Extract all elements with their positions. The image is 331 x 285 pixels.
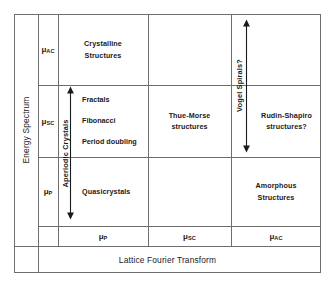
energy-tick-mu-p-sub: P [49, 190, 53, 196]
cell-thue-morse-line2: structures [171, 121, 207, 132]
lattice-tick-mu-ac: μAC [231, 226, 321, 246]
energy-tick-mu-ac-sub: AC [46, 48, 54, 54]
energy-spectrum-axis-title-text: Energy Spectrum [21, 97, 31, 164]
lattice-tick-mu-sc-sub: SC [188, 235, 196, 241]
cell-rudin-shapiro-structures: Rudin-Shapiro structures? [252, 85, 321, 157]
lattice-tick-mu-p: μP [58, 226, 148, 246]
cell-aperiodic-items: Fractals Fibonacci Period doubling [82, 90, 148, 152]
lattice-tick-mu-p-base: μ [99, 232, 104, 241]
lattice-fourier-transform-axis-title-text: Lattice Fourier Transform [119, 255, 216, 265]
energy-tick-mu-sc: μSC [38, 85, 58, 157]
cell-thue-morse-structures: Thue-Morse structures [148, 85, 231, 157]
cell-crystalline-structures-line1: Crystalline [84, 38, 122, 49]
cell-quasicrystals-text: Quasicrystals [82, 186, 130, 197]
cell-amorphous-line2: Structures [258, 192, 295, 203]
aperiodic-item-period-doubling: Period doubling [82, 137, 137, 147]
energy-tick-mu-p: μP [38, 157, 58, 226]
energy-tick-mu-p-base: μ [44, 187, 49, 196]
cell-crystalline-structures: Crystalline Structures [58, 14, 148, 85]
cell-quasicrystals: Quasicrystals [78, 157, 148, 226]
cell-thue-morse-line1: Thue-Morse [169, 110, 211, 121]
aperiodic-crystals-arrow-icon [64, 86, 77, 220]
energy-tick-mu-ac: μAC [38, 14, 58, 85]
aperiodic-item-fractals: Fractals [82, 95, 110, 105]
aperiodic-item-fibonacci: Fibonacci [82, 116, 116, 126]
cell-rudin-shapiro-line2: structures? [266, 121, 307, 132]
cell-amorphous-line1: Amorphous [255, 180, 296, 191]
phase-diagram: Energy Spectrum μAC μSC μP μP μSC μAC La… [0, 0, 331, 285]
lattice-tick-mu-sc: μSC [148, 226, 231, 246]
vogel-spirals-arrow-icon [240, 19, 253, 153]
energy-spectrum-axis-title: Energy Spectrum [14, 14, 38, 246]
cell-rudin-shapiro-line1: Rudin-Shapiro [261, 110, 312, 121]
lattice-fourier-transform-axis-title: Lattice Fourier Transform [14, 246, 321, 273]
lattice-tick-mu-ac-sub: AC [274, 235, 282, 241]
cell-crystalline-structures-line2: Structures [85, 50, 122, 61]
cell-amorphous-structures: Amorphous Structures [231, 157, 321, 226]
lattice-tick-mu-p-sub: P [104, 235, 108, 241]
energy-tick-mu-sc-sub: SC [46, 120, 54, 126]
